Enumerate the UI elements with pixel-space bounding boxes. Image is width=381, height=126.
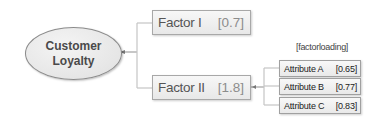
attribute-node-a[interactable]: Attribute A [0.65]	[279, 60, 361, 77]
root-label-line1: Customer	[45, 39, 101, 54]
attribute-node-c[interactable]: Attribute C [0.83]	[279, 97, 361, 114]
attribute-name: Attribute B	[284, 82, 324, 92]
factor-name: Factor II	[158, 80, 205, 95]
attribute-value: [0.77]	[336, 82, 357, 92]
factor-node-2[interactable]: Factor II [1.8]	[152, 75, 251, 100]
mind-map-canvas: Customer Loyalty Factor I [0.7] Factor I…	[0, 0, 381, 126]
attribute-node-b[interactable]: Attribute B [0.77]	[279, 78, 361, 95]
root-label-line2: Loyalty	[52, 54, 94, 69]
factor-name: Factor I	[158, 15, 201, 30]
factor-loading-label: [factorloading]	[296, 42, 348, 52]
attribute-value: [0.65]	[336, 64, 357, 74]
factor-value: [0.7]	[218, 15, 244, 30]
attribute-value: [0.83]	[336, 101, 357, 111]
attribute-name: Attribute C	[284, 101, 324, 111]
attribute-name: Attribute A	[284, 64, 323, 74]
root-node-customer-loyalty[interactable]: Customer Loyalty	[25, 27, 122, 80]
factor-node-1[interactable]: Factor I [0.7]	[152, 10, 251, 35]
factor-value: [1.8]	[218, 80, 244, 95]
